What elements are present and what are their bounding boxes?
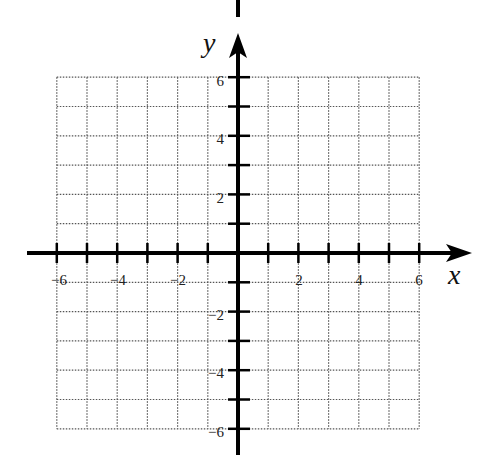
y-tick-label: −4	[208, 365, 224, 381]
x-tick-label: −4	[110, 272, 126, 288]
x-tick-label: 6	[415, 272, 423, 288]
coordinate-plane: −6 −4 −2 2 4 6 6 4 2 −2 −4 −6 x y	[0, 0, 504, 472]
y-axis-label: y	[200, 27, 216, 58]
x-tick-label: 2	[295, 272, 303, 288]
y-tick-label: 4	[217, 131, 225, 147]
y-tick-label: −6	[208, 424, 224, 440]
y-axis	[229, 0, 247, 455]
x-tick-label: 4	[355, 272, 363, 288]
y-tick-label: 6	[217, 73, 225, 89]
x-tick-label: −6	[51, 272, 67, 288]
y-tick-label: −2	[208, 307, 224, 323]
y-tick-label: 2	[217, 190, 225, 206]
x-axis	[27, 244, 472, 262]
x-tick-label: −2	[170, 272, 186, 288]
x-axis-label: x	[447, 259, 461, 290]
